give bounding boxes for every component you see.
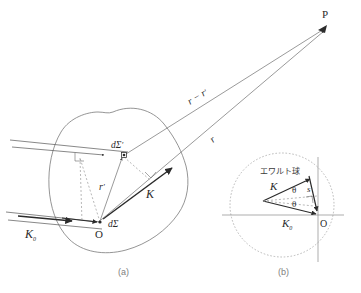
label-k0-b: K0 bbox=[281, 217, 292, 231]
caption-panel-b: (b) bbox=[278, 267, 289, 277]
label-point-p: P bbox=[322, 8, 328, 20]
right-angle-tick-b bbox=[306, 196, 313, 203]
label-r-prime: r′ bbox=[99, 181, 105, 192]
label-d-sigma: dΣ bbox=[108, 219, 119, 229]
origin-point-marker bbox=[98, 220, 101, 223]
dashed-projection-line bbox=[80, 158, 100, 222]
dashed-vertical-line bbox=[80, 158, 82, 222]
label-theta-lower: θ bbox=[292, 199, 296, 209]
label-ewald-sphere: エワルト球 bbox=[260, 166, 300, 176]
label-k-b: K bbox=[269, 180, 278, 192]
r-vector-line bbox=[101, 31, 324, 220]
figure-root: K0 K O dΣ dΣ′ r′ r r − r′ P (a) bbox=[0, 0, 361, 293]
dashed-angle-line-lower bbox=[263, 201, 314, 206]
r-minus-r-prime-line bbox=[126, 29, 324, 154]
label-s-vector: s bbox=[307, 184, 311, 194]
label-k0: K0 bbox=[24, 227, 36, 242]
label-r: r bbox=[207, 134, 217, 145]
k-vector-arrow bbox=[103, 168, 172, 219]
k0-vector-b bbox=[263, 201, 316, 214]
caption-panel-a: (a) bbox=[118, 267, 129, 277]
right-angle-tick-incident bbox=[75, 153, 84, 161]
label-origin-o-b: O bbox=[320, 218, 327, 229]
label-d-sigma-prime: dΣ′ bbox=[111, 140, 123, 150]
dashed-k-projection bbox=[124, 157, 150, 180]
area-element-prime-dot bbox=[123, 154, 126, 157]
label-origin-o: O bbox=[95, 228, 103, 240]
label-k-scattered: K bbox=[145, 187, 155, 201]
panel-b-group: エワルト球 K K0 s θ θ O (b) bbox=[222, 153, 344, 277]
scattering-diagram: K0 K O dΣ dΣ′ r′ r r − r′ P (a) bbox=[0, 0, 361, 293]
label-theta-upper: θ bbox=[292, 185, 296, 195]
sample-blob-outline bbox=[49, 108, 188, 253]
panel-a-group: K0 K O dΣ dΣ′ r′ r r − r′ P (a) bbox=[6, 8, 328, 277]
